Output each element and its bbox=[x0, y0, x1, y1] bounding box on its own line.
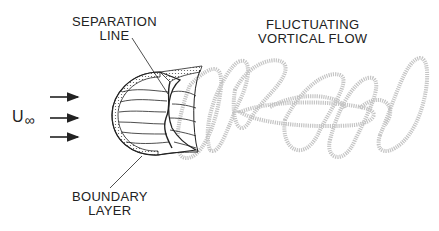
freestream-arrows bbox=[50, 97, 78, 137]
boundary-layer-label: BOUNDARY LAYER bbox=[72, 190, 148, 218]
separation-line-label: SEPARATION LINE bbox=[72, 15, 157, 43]
sphere-body bbox=[112, 66, 202, 155]
wake-vortex-loops bbox=[177, 58, 427, 158]
fluctuating-vortical-flow-label: FLUCTUATING VORTICAL FLOW bbox=[258, 18, 367, 46]
freestream-velocity-label: U∞ bbox=[12, 108, 35, 128]
flow-diagram-svg bbox=[0, 0, 439, 231]
diagram-canvas: U∞ SEPARATION LINE BOUNDARY LAYER FLUCTU… bbox=[0, 0, 439, 231]
boundary-leader-line bbox=[110, 156, 142, 188]
